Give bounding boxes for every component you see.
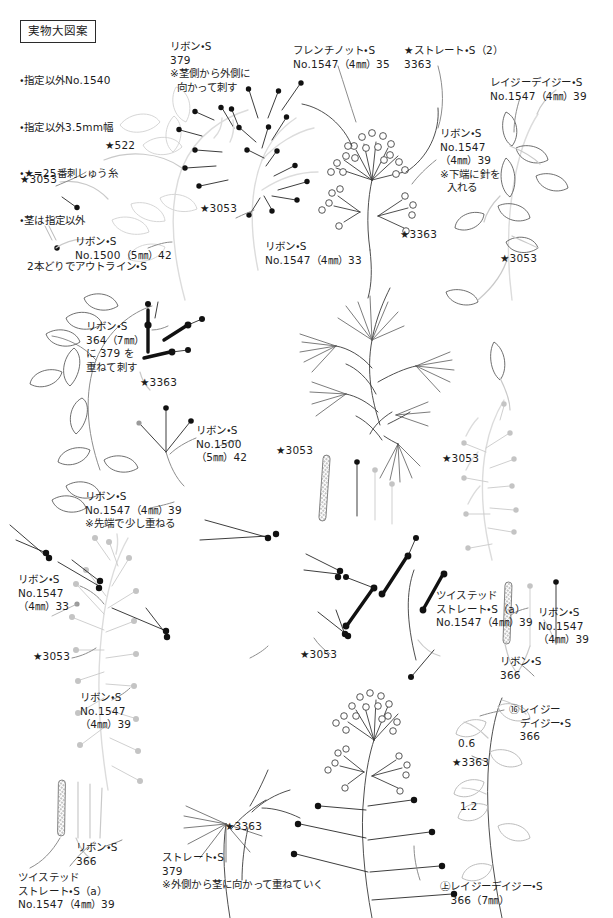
stitch-callout: ツイステッド ストレート・S（a） No.1547（4㎜）39	[18, 871, 115, 912]
legend-line: ・指定以外3.5mm幅	[20, 120, 147, 136]
stitch-callout: リボン・S 364（7㎜） に 379 を 重ねて刺す	[86, 320, 144, 374]
stitch-callout: リボン・S No.1547 （4㎜）39	[80, 691, 131, 732]
stitch-callout: リボン・S 379 ※茎側から外側に 向かって刺す	[170, 40, 250, 94]
stitch-callout: フレンチノット・S No.1547（4㎜）35	[293, 44, 390, 71]
stitch-callout: ★3053	[500, 252, 537, 266]
stitch-callout: リボン・S No.1547（4㎜）33	[265, 240, 362, 267]
motif-french-knot-umbel	[302, 104, 438, 298]
legend-line: ・茎は指定以外	[20, 213, 147, 229]
stitch-callout: ツイステッド ストレート・S（a） No.1547（4㎜）39	[436, 589, 533, 630]
stitch-callout: リボン・S 366	[76, 841, 118, 868]
motif-pale-spray-midright	[461, 400, 518, 560]
stitch-callout: リボン・S No.1500 （5㎜）42	[196, 424, 247, 465]
stitch-callout: 1.2	[460, 800, 477, 814]
motif-lazy-daisy-stem-right	[455, 90, 568, 300]
stitch-callout: ★3053	[276, 444, 313, 458]
stitch-callout: レイジーデイジー・S No.1547（4㎜）39	[490, 76, 587, 103]
stitch-callout: ★ストレート・S（2） 3363	[404, 44, 503, 71]
stitch-callout: リボン・S 366	[500, 655, 542, 682]
stitch-callout: リボン・S No.1547 （4㎜）33	[18, 573, 69, 614]
stitch-callout: リボン・S No.1547（4㎜）39 ※先端で少し重ねる	[85, 490, 182, 531]
stitch-callout: リボン・S No.1500（5㎜）42	[75, 235, 172, 262]
stitch-callout: ★522	[105, 139, 135, 153]
motif-feathery-grass-midright	[300, 288, 454, 482]
stitch-callout: ★3053	[200, 202, 237, 216]
stitch-callout: 0.6	[458, 737, 475, 751]
stitch-callout: ストレート・S 379 ※外側から茎に向かって重ねていく	[162, 851, 323, 892]
stitch-callout: ★3053	[300, 648, 337, 662]
page-title: 実物大図案	[20, 20, 96, 43]
stitch-callout: ★3053	[442, 452, 479, 466]
stitch-callout: ★3363	[140, 376, 177, 390]
stitch-callout: リボン・S No.1547 （4㎜）39	[538, 606, 589, 647]
stitch-callout: ★3363	[452, 756, 489, 770]
stitch-callout: ㊤レイジーデイジー・S 366（7㎜）	[440, 880, 543, 907]
stitch-callout: ★3053	[33, 650, 70, 664]
stitch-callout: ★3363	[225, 820, 262, 834]
pattern-sheet: .sd{fill:none;stroke:#3a3a3a;stroke-widt…	[0, 0, 613, 918]
legend-line: ・指定以外No.1540	[20, 73, 147, 89]
stitch-callout: ★3363	[400, 228, 437, 242]
stitch-callout: リボン・S No.1547 （4㎜）39 ※下端に針を 入れる	[440, 127, 500, 195]
motif-pin-cluster-mid	[136, 405, 196, 486]
motif-bottom-left-grass	[184, 770, 300, 918]
motif-hatched-ribbon-mid	[319, 455, 395, 524]
motif-pale-tree-left	[69, 534, 143, 790]
motif-small-leaves-right	[446, 256, 510, 410]
stitch-callout: ⑯レイジー デイジー・S 366	[509, 703, 571, 744]
stitch-callout: ★3053	[20, 173, 57, 187]
